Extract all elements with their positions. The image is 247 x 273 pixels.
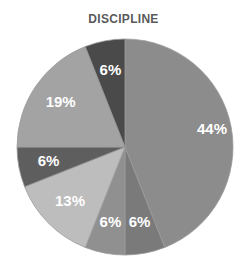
slice-label: 19% [46,93,76,110]
slice-label: 6% [38,152,60,169]
slice-label: 44% [197,120,227,137]
slice-label: 13% [55,192,85,209]
slice-label: 6% [100,61,122,78]
pie-chart: 44%6%6%13%6%19%6% [0,0,247,273]
slice-label: 6% [129,213,151,230]
slice-label: 6% [100,213,122,230]
